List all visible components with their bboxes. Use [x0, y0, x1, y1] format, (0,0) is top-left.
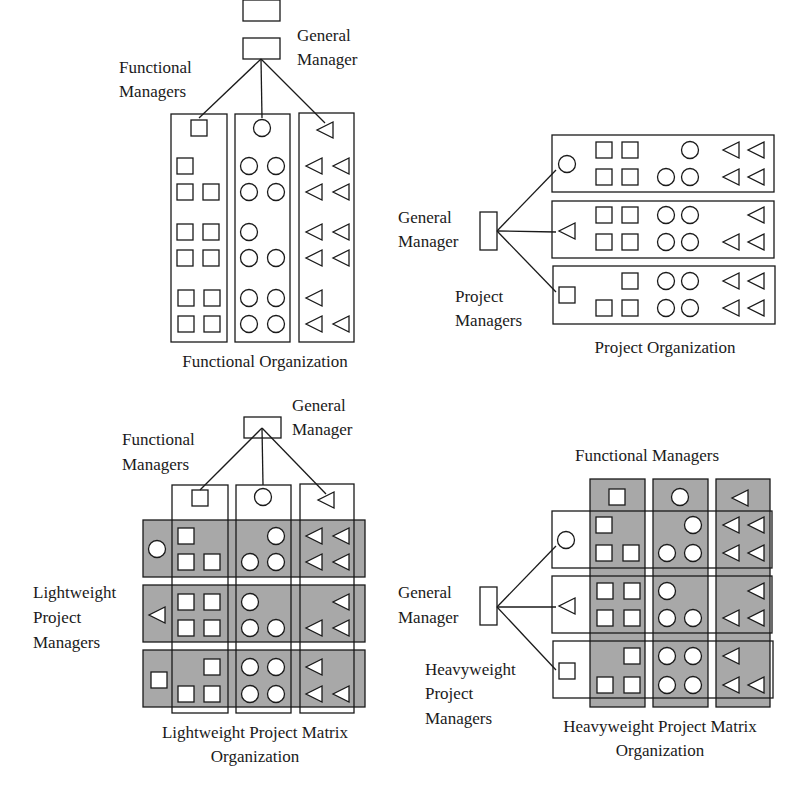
functional-gm-label-1: General [297, 26, 351, 46]
functional-gm-label-2: Manager [297, 50, 357, 70]
organization-diagrams [0, 0, 804, 794]
lightweight-gm-label-1: General [292, 396, 346, 416]
function-column-triangle [299, 113, 354, 342]
general-manager-box [243, 0, 280, 21]
project-pm-label-2: Managers [455, 311, 522, 331]
heavyweight-caption-2: Organization [535, 740, 785, 761]
lightweight-pm-label-1: Lightweight [33, 583, 116, 603]
functional-fm-label-2: Managers [119, 82, 186, 102]
heavyweight-pm-label-3: Managers [425, 709, 492, 729]
lightweight-pm-label-3: Managers [33, 633, 100, 653]
lightweight-caption-1: Lightweight Project Matrix [130, 722, 380, 743]
heavyweight-pm-label-1: Heavyweight [425, 660, 516, 680]
lightweight-fm-label-2: Managers [122, 455, 189, 475]
project-row-1 [552, 135, 774, 192]
function-column-circle [235, 114, 290, 342]
project-pm-label-1: Project [455, 287, 503, 307]
functional-caption: Functional Organization [160, 351, 370, 372]
heavyweight-fm-label: Functional Managers [575, 446, 719, 466]
lightweight-pm-label-2: Project [33, 608, 81, 628]
heavyweight-gm-label-1: General [398, 583, 452, 603]
heavyweight-pm-label-2: Project [425, 684, 473, 704]
lightweight-gm-label-2: Manager [292, 420, 352, 440]
functional-fm-label-1: Functional [119, 58, 192, 78]
heavyweight-gm-label-2: Manager [398, 608, 458, 628]
lightweight-fm-label-1: Functional [122, 430, 195, 450]
project-gm-label-1: General [398, 208, 452, 228]
heavyweight-matrix-organization [480, 479, 773, 707]
project-row-3 [553, 266, 775, 324]
lightweight-caption-2: Organization [130, 746, 380, 767]
project-caption: Project Organization [570, 337, 760, 358]
heavyweight-caption-1: Heavyweight Project Matrix [535, 716, 785, 737]
project-gm-label-2: Manager [398, 232, 458, 252]
project-organization [480, 135, 775, 324]
